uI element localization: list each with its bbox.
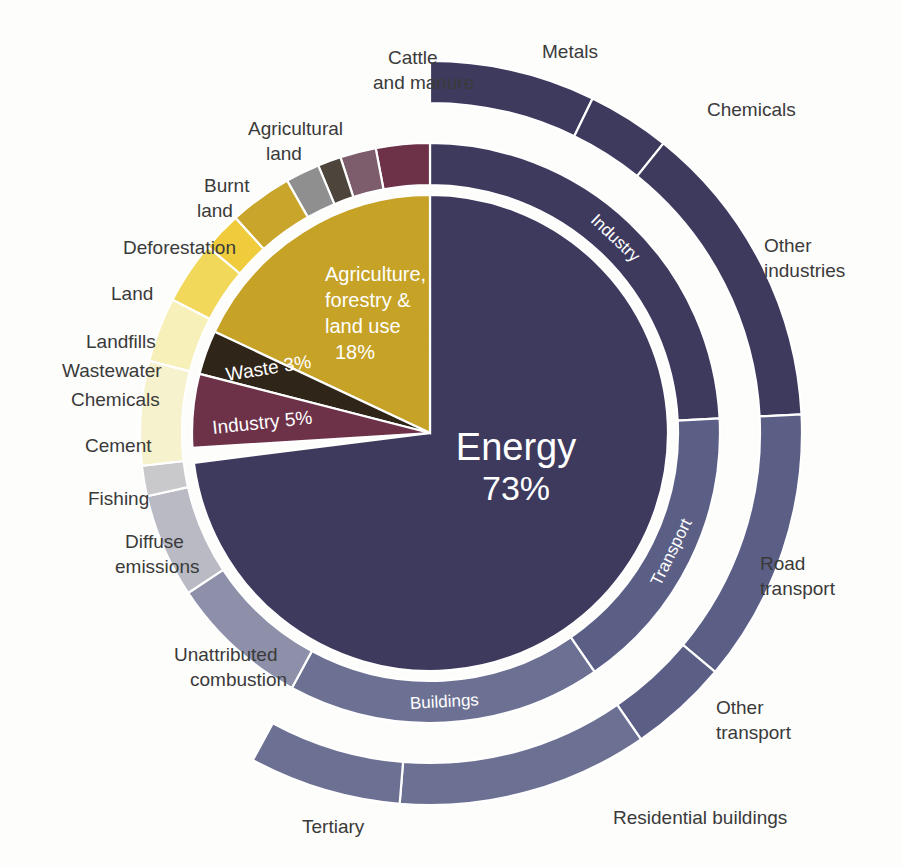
label-landfills: Landfills	[86, 331, 156, 352]
label-road-transport-2: transport	[760, 578, 836, 599]
label-fishing: Fishing	[88, 488, 149, 509]
label-wastewater: Wastewater	[62, 360, 162, 381]
label-agricultural-land-1: Agricultural	[248, 118, 343, 139]
label-deforestation: Deforestation	[123, 237, 236, 258]
label-agricultural-land-2: land	[266, 143, 302, 164]
ring2-label-buildings: Buildings	[409, 690, 479, 713]
pie-label-agriculture-line2: forestry &	[325, 289, 411, 311]
label-burnt-land-1: Burnt	[204, 175, 250, 196]
label-road-transport-1: Road	[760, 553, 805, 574]
pie-label-agriculture-line1: Agriculture,	[325, 263, 426, 285]
label-other-industries-2: industries	[764, 260, 845, 281]
pie-label-agriculture-value: 18%	[335, 341, 375, 363]
label-residential-buildings: Residential buildings	[613, 807, 787, 828]
chart-canvas: BuildingsTransportIndustry Energy73%Agri…	[0, 0, 902, 867]
label-chemicals-waste: Chemicals	[71, 389, 160, 410]
pie-label-energy-name: Energy	[456, 426, 576, 468]
label-chemicals-industry: Chemicals	[707, 99, 796, 120]
ring3-tertiary[interactable]	[253, 723, 403, 804]
label-unattributed-2: combustion	[190, 669, 287, 690]
label-unattributed-1: Unattributed	[174, 644, 278, 665]
label-land: Land	[111, 283, 153, 304]
label-tertiary: Tertiary	[302, 816, 365, 837]
label-diffuse-1: Diffuse	[125, 531, 184, 552]
label-cattle-2: and manure	[373, 72, 474, 93]
label-diffuse-2: emissions	[115, 556, 199, 577]
ghg-emissions-sunburst-chart: BuildingsTransportIndustry Energy73%Agri…	[0, 0, 902, 867]
label-metals: Metals	[542, 41, 598, 62]
label-burnt-land-2: land	[197, 200, 233, 221]
inner-pie-segments	[192, 195, 668, 671]
label-cattle-1: Cattle	[388, 47, 438, 68]
label-other-industries-1: Other	[764, 235, 812, 256]
label-cement: Cement	[85, 435, 152, 456]
ring2-cement[interactable]	[376, 143, 430, 189]
pie-label-agriculture-line3: land use	[325, 315, 401, 337]
label-other-transport-2: transport	[716, 722, 792, 743]
label-other-transport-1: Other	[716, 697, 764, 718]
pie-label-energy-value: 73%	[482, 469, 550, 507]
